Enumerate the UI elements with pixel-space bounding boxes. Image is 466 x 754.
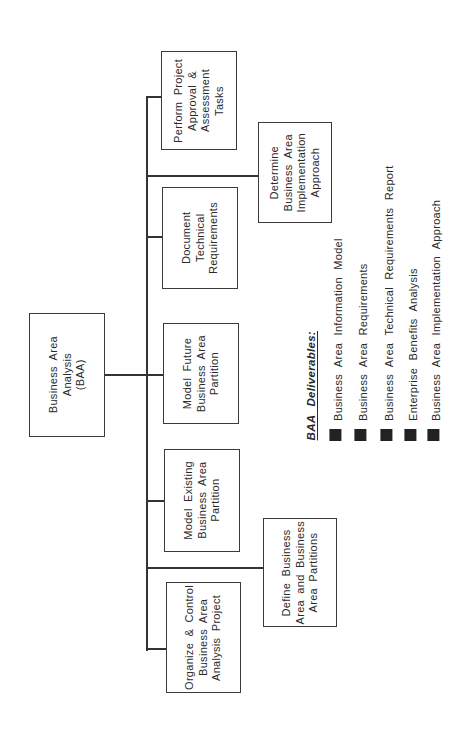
label-line: Technical — [193, 202, 207, 274]
label-line: Requirements — [207, 202, 221, 274]
connector-document — [146, 236, 163, 238]
label-line: Analysis — [60, 336, 74, 413]
connector-define — [146, 567, 264, 569]
label-line: Tasks — [213, 59, 227, 143]
task-determine-implementation: Determine Business Area Implementation A… — [258, 122, 332, 223]
connector-model-existing — [146, 500, 165, 502]
deliverable-item: Business Area Information Model — [330, 150, 344, 441]
label-line: Determine — [268, 133, 282, 212]
deliverable-text: Business Area Technical Requirements Rep… — [383, 165, 395, 421]
task-label: Perform Project Approval & Assessment Ta… — [172, 59, 226, 143]
label-line: Approval & — [186, 59, 200, 143]
deliverable-item: Business Area Technical Requirements Rep… — [381, 150, 395, 441]
connector-perform — [146, 96, 162, 98]
label-line: Business Area — [194, 335, 208, 412]
bullet-square-icon — [380, 429, 392, 441]
connector-model-future — [146, 374, 164, 376]
label-line: Business Area — [47, 336, 61, 413]
task-document-technical-requirements: Document Technical Requirements — [162, 187, 238, 289]
label-line: (BAA) — [74, 336, 88, 413]
task-label: Define Business Area and Business Area P… — [280, 521, 321, 624]
label-line: Model Future — [181, 335, 195, 412]
label-line: Analysis Project — [210, 585, 224, 690]
task-model-existing-partition: Model Existing Business Area Partition — [164, 449, 240, 552]
task-perform-project-approval: Perform Project Approval & Assessment Ta… — [161, 51, 237, 150]
label-line: Area Partitions — [307, 521, 321, 624]
task-label: Determine Business Area Implementation A… — [268, 133, 322, 212]
task-label: Organize & Control Business Area Analysi… — [183, 585, 224, 690]
bullet-square-icon — [354, 429, 366, 441]
task-model-future-partition: Model Future Business Area Partition — [163, 323, 239, 424]
label-line: Model Existing — [182, 461, 196, 540]
task-organize-control: Organize & Control Business Area Analysi… — [166, 582, 241, 693]
root-node-label: Business Area Analysis (BAA) — [47, 336, 88, 413]
label-line: Perform Project — [172, 59, 186, 143]
connector-determine — [146, 175, 259, 177]
task-label: Model Future Business Area Partition — [181, 335, 222, 412]
label-line: Partition — [208, 335, 222, 412]
label-line: Business Area — [197, 585, 211, 690]
task-label: Model Existing Business Area Partition — [182, 461, 223, 540]
label-line: Organize & Control — [183, 585, 197, 690]
deliverable-item: Business Area Requirements — [355, 150, 369, 441]
bullet-square-icon — [404, 429, 416, 441]
bullet-square-icon — [329, 429, 341, 441]
deliverable-text: Business Area Information Model — [332, 238, 344, 421]
connector-organize — [146, 648, 167, 650]
deliverable-item: Business Area Implementation Approach — [428, 150, 442, 441]
deliverable-text: Business Area Requirements — [357, 263, 369, 421]
root-node-baa: Business Area Analysis (BAA) — [29, 313, 105, 437]
connector-root — [104, 374, 147, 376]
task-define-business-area: Define Business Area and Business Area P… — [263, 518, 337, 627]
label-line: Define Business — [280, 521, 294, 624]
task-label: Document Technical Requirements — [180, 202, 221, 274]
label-line: Area and Business — [293, 521, 307, 624]
label-line: Approach — [309, 133, 323, 212]
bullet-square-icon — [427, 429, 439, 441]
label-line: Implementation — [295, 133, 309, 212]
deliverable-item: Enterprise Benefits Analysis — [405, 150, 419, 441]
label-line: Business Area — [282, 133, 296, 212]
deliverable-text: Business Area Implementation Approach — [430, 200, 442, 421]
label-line: Document — [180, 202, 194, 274]
deliverables-title-text: BAA Deliverables: — [305, 331, 319, 440]
label-line: Assessment — [199, 59, 213, 143]
deliverable-text: Enterprise Benefits Analysis — [407, 268, 419, 421]
deliverables-title: BAA Deliverables: — [305, 300, 319, 440]
label-line: Business Area — [195, 461, 209, 540]
label-line: Partition — [209, 461, 223, 540]
